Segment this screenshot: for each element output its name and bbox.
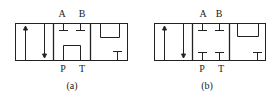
port-label-a-B: B <box>79 8 86 19</box>
port-label-a-A: A <box>58 8 66 19</box>
port-label-a-P: P <box>60 63 66 74</box>
valve-diagrams: A B P T (a) A B P T (b) <box>0 0 267 98</box>
valve-a <box>16 24 128 61</box>
valve-b-right-envelope <box>238 24 263 61</box>
port-label-b-P: P <box>199 63 205 74</box>
port-label-b-B: B <box>216 8 223 19</box>
valve-b-body <box>155 24 266 61</box>
valve-b-left-envelope <box>163 24 186 61</box>
port-label-b-T: T <box>218 63 224 74</box>
valve-b <box>155 24 266 61</box>
caption-b: (b) <box>201 80 213 92</box>
arrow-down-icon <box>182 54 186 58</box>
valve-a-right-envelope <box>101 24 123 61</box>
caption-a: (a) <box>66 80 77 92</box>
port-label-a-T: T <box>79 63 85 74</box>
valve-a-center-envelope <box>59 24 85 61</box>
port-label-b-A: A <box>199 8 207 19</box>
arrow-up-icon <box>163 26 167 30</box>
arrow-up-icon <box>24 26 28 30</box>
valve-b-center-envelope <box>198 24 224 61</box>
arrow-down-icon <box>43 54 47 58</box>
valve-a-body <box>16 24 128 61</box>
valve-a-left-envelope <box>24 24 47 61</box>
